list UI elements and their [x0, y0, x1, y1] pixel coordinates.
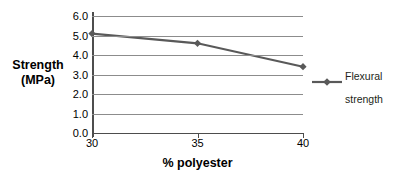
- chart-screenshot: Strength (MPa) 0.01.02.03.04.05.06.0 303…: [0, 0, 399, 185]
- x-axis-tick-labels: 303540: [92, 137, 303, 151]
- x-axis-tick-label: 35: [178, 137, 218, 149]
- x-axis-tick-label: 30: [72, 137, 112, 149]
- x-axis-tick-label: 40: [283, 137, 323, 149]
- y-axis-tick-labels: 0.01.02.03.04.05.06.0: [56, 11, 88, 137]
- y-axis-tick-label: 5.0: [56, 31, 88, 42]
- gridline: [92, 114, 303, 115]
- y-axis-tick-label: 6.0: [56, 11, 88, 22]
- data-point-marker: [194, 40, 201, 47]
- legend-label-line-2: strength: [345, 93, 383, 105]
- series-line: [92, 34, 303, 67]
- gridline: [92, 94, 303, 95]
- gridline: [92, 16, 303, 17]
- legend: Flexural strength: [312, 59, 383, 105]
- data-point-marker: [299, 63, 306, 70]
- y-axis-tick-label: 4.0: [56, 50, 88, 61]
- gridline: [92, 36, 303, 37]
- legend-line-marker-icon: [312, 75, 342, 89]
- gridline: [92, 75, 303, 76]
- y-axis-tick-label: 1.0: [56, 109, 88, 120]
- y-axis-tick-label: 2.0: [56, 89, 88, 100]
- legend-label-line-1: Flexural: [345, 70, 382, 82]
- gridline: [92, 55, 303, 56]
- legend-entry-label: Flexural strength: [345, 59, 383, 105]
- y-axis-tick-label: 3.0: [56, 70, 88, 81]
- plot-area: [92, 16, 303, 133]
- x-axis-title: % polyester: [92, 156, 303, 170]
